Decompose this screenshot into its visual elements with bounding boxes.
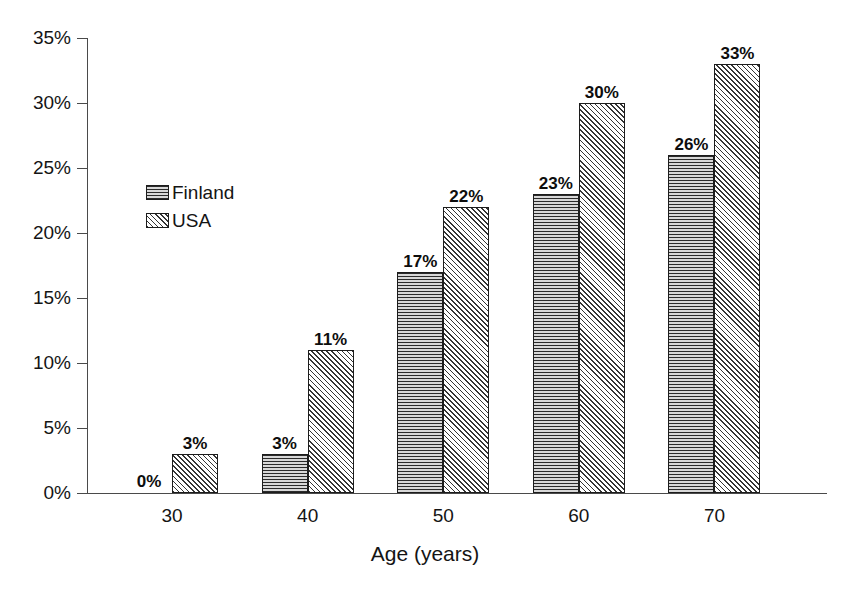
horizontal-stripes-swatch (146, 185, 169, 200)
x-axis-tick-label: 70 (704, 505, 725, 527)
y-axis-tick (77, 38, 87, 39)
y-axis-tick (77, 428, 87, 429)
x-axis-tick-label: 30 (161, 505, 182, 527)
y-axis-tick (77, 103, 87, 104)
legend-item-usa: USA (146, 208, 234, 232)
y-axis-tick (77, 363, 87, 364)
y-axis-tick-label: 30% (5, 93, 71, 112)
bar-value-label: 0% (137, 473, 162, 490)
x-axis-tick-label: 60 (568, 505, 589, 527)
bar-finland-40: 3% (262, 454, 308, 493)
diagonal-hatch-swatch (146, 213, 169, 228)
bar-finland-50: 17% (397, 272, 443, 493)
bar-value-label: 3% (272, 435, 297, 452)
bar-value-label: 17% (403, 253, 437, 270)
y-axis-tick-label: 20% (5, 223, 71, 242)
bar-value-label: 26% (674, 136, 708, 153)
y-axis-tick (77, 298, 87, 299)
y-axis-tick (77, 233, 87, 234)
x-axis-title: Age (years) (0, 542, 850, 566)
bar-value-label: 3% (183, 435, 208, 452)
y-axis-tick-label: 0% (5, 483, 71, 502)
bar-usa-70: 33% (714, 64, 760, 493)
bar-group: 26%33% (668, 38, 760, 493)
y-axis-tick-label: 15% (5, 288, 71, 307)
bar-chart: 0%5%10%15%20%25%30%35% 3040506070 0%3%3%… (0, 0, 850, 594)
x-axis-tick-label: 50 (433, 505, 454, 527)
bar-value-label: 22% (449, 188, 483, 205)
bar-value-label: 11% (314, 331, 347, 348)
bar-usa-40: 11% (308, 350, 354, 493)
y-axis-tick (77, 168, 87, 169)
y-axis-tick-label: 10% (5, 353, 71, 372)
bar-group: 17%22% (397, 38, 489, 493)
bar-group: 23%30% (533, 38, 625, 493)
legend-item-finland: Finland (146, 180, 234, 204)
bar-value-label: 23% (539, 175, 573, 192)
legend-item-label: USA (172, 211, 211, 230)
y-axis-tick-label: 25% (5, 158, 71, 177)
bar-group: 0%3% (126, 38, 218, 493)
chart-legend: FinlandUSA (146, 180, 234, 236)
x-axis-line (87, 493, 827, 494)
bar-group: 3%11% (262, 38, 354, 493)
bar-finland-70: 26% (668, 155, 714, 493)
plot-area: 0%3%3%11%17%22%23%30%26%33% (88, 38, 827, 493)
bar-usa-30: 3% (172, 454, 218, 493)
y-axis-tick-label: 5% (5, 418, 71, 437)
legend-item-label: Finland (172, 183, 234, 202)
bar-usa-60: 30% (579, 103, 625, 493)
bar-value-label: 33% (720, 45, 754, 62)
bar-finland-60: 23% (533, 194, 579, 493)
y-axis-tick (77, 493, 87, 494)
y-axis-tick-label: 35% (5, 28, 71, 47)
x-axis-tick-label: 40 (297, 505, 318, 527)
bar-usa-50: 22% (443, 207, 489, 493)
bar-value-label: 30% (585, 84, 619, 101)
